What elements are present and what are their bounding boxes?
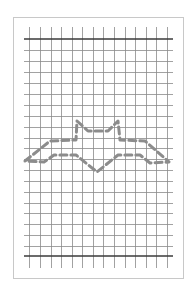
bat-dashed-outline xyxy=(25,121,169,172)
grid-horizontal-lines xyxy=(24,51,173,247)
grid-worksheet xyxy=(0,0,190,283)
page-frame xyxy=(14,18,184,279)
grid-vertical-lines xyxy=(30,27,168,268)
